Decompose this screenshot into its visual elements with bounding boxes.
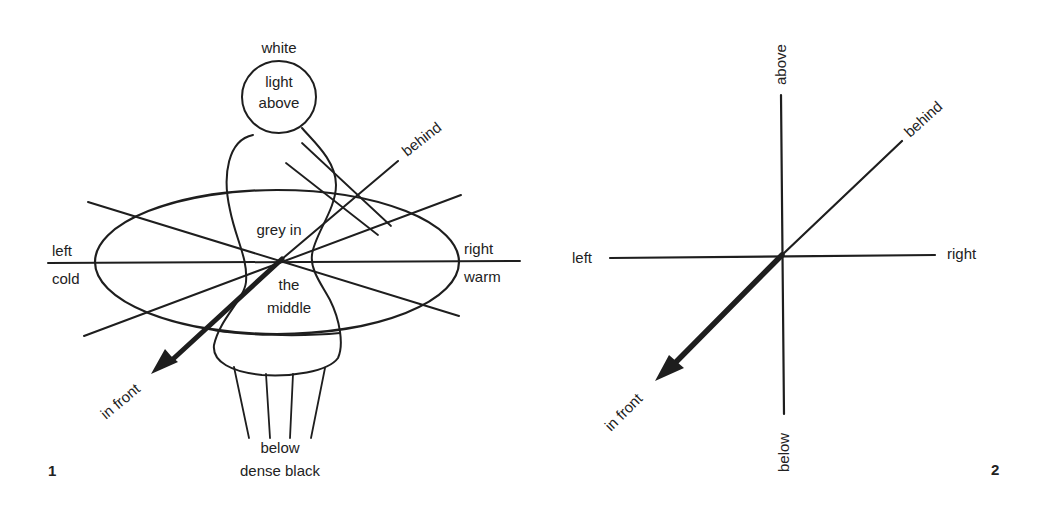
label-above: above [259,94,300,111]
label-left-2: left [572,249,593,266]
label-right: right [464,240,494,257]
label-warm: warm [463,268,501,285]
label-dense-black: dense black [240,462,321,479]
label-behind: behind [398,118,444,159]
label-in-front-2: in front [601,389,646,434]
label-above-2: above [772,44,789,85]
label-middle: middle [267,299,311,316]
diagram-canvas: white light above behind grey in the mid… [0,0,1044,505]
label-light: light [265,73,293,90]
figure-2: above behind left right in front below 2 [572,44,999,478]
label-below-2: below [775,433,792,472]
label-behind-2: behind [901,97,946,140]
body-outline [214,128,341,375]
front-arrowhead-icon [151,349,178,374]
label-in-front: in front [97,379,144,422]
label-white: white [260,39,296,56]
front-axis-shaft [172,259,282,360]
label-grey-in: grey in [256,221,301,238]
horizontal-axis [610,255,935,258]
hatch-line-1 [302,143,391,226]
label-right-2: right [947,245,977,262]
label-the: the [279,276,300,293]
label-left: left [52,242,73,259]
figure-number-2: 2 [991,461,999,478]
leg-line-3 [290,374,293,438]
behind-axis-2 [782,141,902,255]
figure-1: white light above behind grey in the mid… [48,39,520,479]
figure-number-1: 1 [48,462,56,479]
front-axis-shaft-2 [676,255,782,362]
leg-line-4 [311,368,325,438]
leg-line-2 [266,374,270,438]
label-below: below [260,439,299,456]
leg-line-1 [234,367,249,438]
label-cold: cold [52,270,80,287]
behind-axis [282,161,398,259]
